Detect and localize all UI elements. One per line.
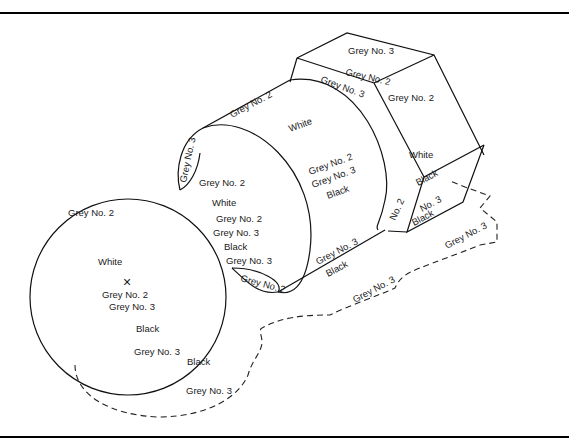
label-cyl-left-black: Black — [224, 241, 247, 252]
label-hex-white: White — [409, 149, 433, 160]
hex-nut — [290, 33, 484, 232]
label-cyl-left-grey3: Grey No. 3 — [213, 227, 259, 238]
label-shadow-mid: Grey No. 3 — [351, 273, 397, 304]
label-cyl-black: Black — [325, 183, 351, 201]
label-cyl-left-grey2: Grey No. 2 — [199, 177, 245, 188]
center-mark: × — [123, 274, 131, 290]
label-hex-no2: No. 2 — [387, 197, 407, 222]
label-cyl-left-grey3b: Grey No. 3 — [226, 255, 272, 266]
label-cyl-left-white: White — [212, 197, 236, 208]
label-disk-black: Black — [136, 323, 159, 334]
label-disk-white: White — [98, 256, 122, 267]
label-hex-black-1: Black — [414, 167, 440, 188]
label-disk-black-edge: Black — [187, 356, 210, 367]
label-hex-top: Grey No. 3 — [348, 45, 394, 56]
label-shadow-disk: Grey No. 3 — [186, 385, 232, 396]
label-disk-grey2: Grey No. 2 — [68, 207, 114, 218]
label-hex-right-face: Grey No. 2 — [388, 92, 434, 103]
label-cyl-left-grey2b: Grey No. 2 — [216, 213, 262, 224]
label-disk-grey2b: Grey No. 2 — [102, 289, 148, 300]
label-cyl-white: White — [287, 115, 314, 134]
label-cyl-top-edge: Grey No. 2 — [228, 88, 274, 119]
label-shadow-right: Grey No. 3 — [443, 219, 489, 250]
label-disk-grey3b: Grey No. 3 — [134, 346, 180, 357]
label-disk-grey3: Grey No. 3 — [109, 301, 155, 312]
diagram-canvas: × Grey No. 3 Grey No. 2 Grey No. 3 Grey … — [0, 0, 569, 447]
